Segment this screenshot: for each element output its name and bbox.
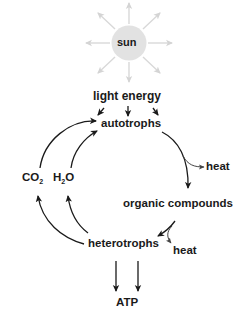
co2-text: CO [22,171,39,183]
heterotrophs-label: heterotrophs [88,238,159,250]
h2o-o-text: O [65,171,74,183]
co2-subscript: 2 [39,178,43,185]
co2-label: CO2 [22,172,43,184]
ray-upleft-icon [98,13,115,29]
arrow-light-autotrophs-left [98,108,104,115]
arrow-co2-autotrophs [40,121,96,168]
arrow-light-autotrophs-right [153,108,158,115]
heat-label-1: heat [206,161,230,173]
arrow-organic-heterotrophs [158,221,175,236]
h2o-subscript: 2 [61,178,65,185]
arrow-h2o-autotrophs [71,131,97,168]
ray-downright-icon [143,57,160,73]
sun-label: sun [117,37,137,48]
ray-upright-icon [143,13,160,29]
light-energy-label: light energy [93,90,161,102]
organic-compounds-label: organic compounds [123,198,233,210]
autotrophs-label: autotrophs [101,118,161,130]
arrow-heterotrophs-h2o [68,196,88,233]
atp-label: ATP [116,297,138,309]
ray-downleft-icon [98,57,115,73]
heat-label-2: heat [173,245,197,257]
h2o-label: H2O [53,172,74,184]
arrow-autotrophs-organic [162,132,188,188]
arrow-heterotrophs-co2 [38,196,84,244]
